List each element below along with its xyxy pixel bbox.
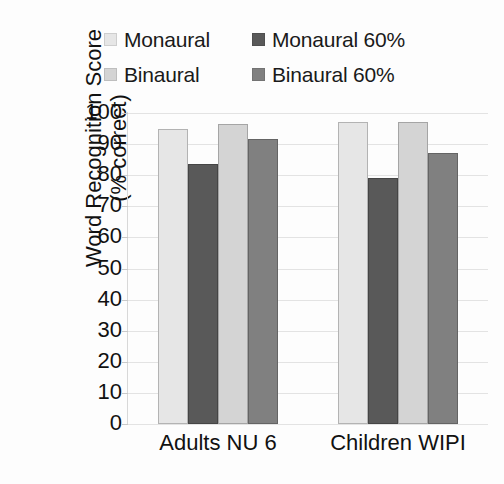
x-axis-tick-label: Adults NU 6 <box>128 432 308 454</box>
gridline <box>128 424 488 425</box>
bar <box>188 164 218 424</box>
y-axis-tick-mark <box>122 393 128 394</box>
legend-item-binaural-60: Binaural 60% <box>252 64 434 85</box>
bar <box>218 124 248 424</box>
legend-item-monaural-60: Monaural 60% <box>252 29 434 50</box>
bar <box>338 122 368 424</box>
y-axis-tick-mark <box>122 175 128 176</box>
bar <box>428 153 458 424</box>
bar <box>248 139 278 424</box>
y-axis-tick-mark <box>122 113 128 114</box>
y-axis-tick-mark <box>122 144 128 145</box>
legend-swatch-binaural-60 <box>252 68 265 81</box>
y-axis-tick-label: 60 <box>70 225 122 247</box>
y-axis-tick-label: 50 <box>70 257 122 279</box>
legend-label-monaural-60: Monaural 60% <box>272 29 405 50</box>
plot-area <box>128 113 488 424</box>
y-axis-tick-label: 10 <box>70 381 122 403</box>
y-axis-tick-label: 20 <box>70 350 122 372</box>
bar-chart-figure: Monaural Monaural 60% Binaural Binaural … <box>0 0 504 484</box>
x-axis-tick-labels: Adults NU 6Children WIPI <box>128 432 488 466</box>
y-axis-tick-mark <box>122 331 128 332</box>
y-axis-tick-mark <box>122 362 128 363</box>
y-axis-tick-mark <box>122 300 128 301</box>
gridline <box>128 113 488 114</box>
y-axis-tick-label: 30 <box>70 319 122 341</box>
legend-swatch-monaural-60 <box>252 33 265 46</box>
y-axis-tick-label: 0 <box>70 412 122 434</box>
chart-legend: Monaural Monaural 60% Binaural Binaural … <box>104 22 434 92</box>
y-axis-tick-labels: 1009080706050403020100 <box>60 0 122 484</box>
y-axis-tick-mark <box>122 237 128 238</box>
y-axis-tick-mark <box>122 269 128 270</box>
bar <box>398 122 428 424</box>
y-axis-tick-label: 80 <box>70 163 122 185</box>
bar <box>368 178 398 424</box>
y-axis-tick-label: 90 <box>70 132 122 154</box>
y-axis-tick-label: 40 <box>70 288 122 310</box>
legend-label-monaural: Monaural <box>124 29 210 50</box>
x-axis-tick-label: Children WIPI <box>308 432 488 454</box>
y-axis-tick-label: 70 <box>70 194 122 216</box>
bar <box>158 129 188 424</box>
y-axis-tick-mark <box>122 424 128 425</box>
y-axis-tick-mark <box>122 206 128 207</box>
legend-label-binaural-60: Binaural 60% <box>272 64 395 85</box>
y-axis-tick-label: 100 <box>70 101 122 123</box>
